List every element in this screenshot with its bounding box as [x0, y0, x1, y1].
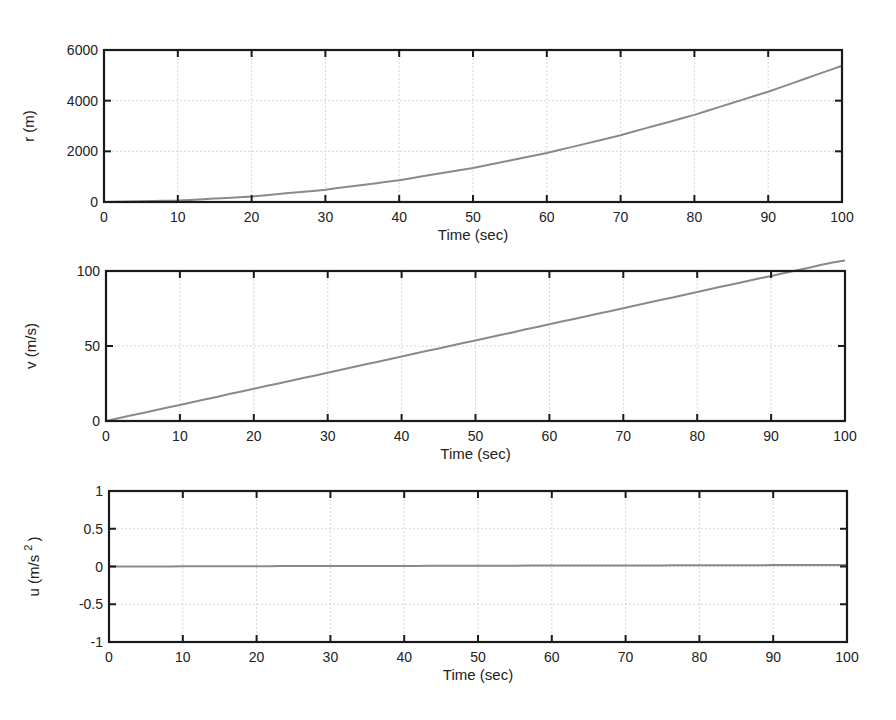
x-tick-label: 50 [465, 209, 481, 225]
y-tick-label: 100 [77, 263, 101, 279]
x-tick-label: 50 [468, 428, 484, 444]
y-tick-label: 50 [84, 338, 100, 354]
position-plot: 01020304050607080901000200040006000Time … [20, 42, 854, 243]
y-tick-label: 2000 [67, 143, 98, 159]
x-tick-label: 70 [613, 209, 629, 225]
x-tick-label: 0 [102, 428, 110, 444]
x-tick-label: 50 [470, 649, 486, 665]
x-tick-label: 40 [394, 428, 410, 444]
y-tick-label: 4000 [67, 93, 98, 109]
y-tick-label: -0.5 [79, 596, 103, 612]
velocity-plot: 0102030405060708090100050100Time (sec)v … [22, 261, 857, 463]
figure: 01020304050607080901000200040006000Time … [0, 0, 896, 720]
x-tick-label: 20 [246, 428, 262, 444]
x-tick-label: 10 [172, 428, 188, 444]
x-tick-label: 20 [249, 649, 265, 665]
x-tick-label: 100 [830, 209, 854, 225]
x-tick-label: 80 [689, 428, 705, 444]
x-tick-label: 0 [105, 649, 113, 665]
x-tick-label: 40 [391, 209, 407, 225]
x-tick-label: 10 [175, 649, 191, 665]
y-tick-label: -1 [91, 634, 104, 650]
x-tick-label: 30 [318, 209, 334, 225]
series-line-u [109, 565, 847, 567]
x-tick-label: 60 [539, 209, 555, 225]
grid-lines [104, 50, 842, 202]
x-tick-label: 100 [835, 649, 859, 665]
y-tick-label: 6000 [67, 42, 98, 58]
x-tick-label: 70 [616, 428, 632, 444]
x-tick-label: 80 [692, 649, 708, 665]
x-axis-label: Time (sec) [438, 226, 508, 243]
y-tick-label: 0.5 [84, 521, 104, 537]
stacked-time-series-chart: 01020304050607080901000200040006000Time … [0, 0, 896, 720]
y-axis-label: v (m/s) [22, 323, 39, 369]
y-tick-label: 0 [92, 413, 100, 429]
grid-lines [106, 271, 845, 421]
y-tick-label: 0 [95, 559, 103, 575]
x-tick-label: 90 [760, 209, 776, 225]
x-tick-label: 60 [542, 428, 558, 444]
x-tick-label: 100 [833, 428, 857, 444]
y-tick-label: 1 [95, 483, 103, 499]
x-axis-label: Time (sec) [443, 666, 513, 683]
x-tick-label: 30 [323, 649, 339, 665]
y-tick-label: 0 [90, 194, 98, 210]
x-tick-label: 60 [544, 649, 560, 665]
x-tick-label: 70 [618, 649, 634, 665]
x-tick-label: 0 [100, 209, 108, 225]
y-axis-label: u (m/s2) [22, 537, 42, 597]
x-tick-label: 10 [170, 209, 186, 225]
x-tick-label: 20 [244, 209, 260, 225]
x-tick-label: 80 [687, 209, 703, 225]
acceleration-plot: 0102030405060708090100-1-0.500.51Time (s… [22, 483, 859, 683]
x-tick-label: 30 [320, 428, 336, 444]
y-axis-label: r (m) [20, 110, 37, 142]
x-axis-label: Time (sec) [440, 445, 510, 462]
x-tick-label: 40 [396, 649, 412, 665]
x-tick-label: 90 [765, 649, 781, 665]
x-tick-label: 90 [763, 428, 779, 444]
